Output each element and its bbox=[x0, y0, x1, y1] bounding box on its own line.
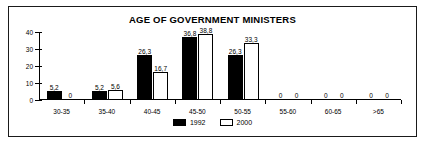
bar-2000-40-45[interactable]: 16,7 bbox=[153, 72, 168, 100]
x-axis-category-label: 30-35 bbox=[39, 108, 84, 115]
bar-value-label: 0 bbox=[340, 92, 344, 99]
bar-value-label: 5,2 bbox=[50, 84, 59, 91]
x-axis-tick bbox=[175, 100, 176, 104]
legend-swatch-1992 bbox=[173, 119, 186, 126]
x-axis-category-label: 55-60 bbox=[265, 108, 310, 115]
x-axis-tick bbox=[311, 100, 312, 104]
x-axis-category-label: 35-40 bbox=[84, 108, 129, 115]
x-axis-category-label: >65 bbox=[356, 108, 401, 115]
legend-label: 2000 bbox=[237, 119, 253, 126]
bar-2000-50-55[interactable]: 33,3 bbox=[244, 43, 259, 100]
x-axis-category-label: 40-45 bbox=[130, 108, 175, 115]
bar-group: 0060-65 bbox=[311, 32, 356, 100]
bar-value-label: 0 bbox=[369, 92, 373, 99]
bar-value-label: 5,2 bbox=[95, 84, 104, 91]
bar-value-label: 0 bbox=[279, 92, 283, 99]
bar-1992-50-55[interactable]: 26,3 bbox=[228, 55, 243, 100]
bar-value-label: 26,3 bbox=[229, 48, 242, 55]
bar-1992-35-40[interactable]: 5,2 bbox=[92, 91, 107, 100]
bar-value-label: 16,7 bbox=[154, 65, 167, 72]
x-axis-tick bbox=[356, 100, 357, 104]
chart-legend: 19922000 bbox=[9, 119, 416, 126]
y-axis-label: 40 bbox=[26, 29, 33, 36]
legend-label: 1992 bbox=[190, 119, 206, 126]
legend-item-1992[interactable]: 1992 bbox=[173, 119, 206, 126]
x-axis-tick bbox=[265, 100, 266, 104]
bar-1992-45-50[interactable]: 36,8 bbox=[182, 37, 197, 100]
bar-value-label: 0 bbox=[68, 92, 72, 99]
bar-value-label: 5,6 bbox=[111, 83, 120, 90]
bar-value-label: 33,3 bbox=[245, 36, 258, 43]
bar-value-label: 0 bbox=[295, 92, 299, 99]
bar-value-label: 36,8 bbox=[184, 30, 197, 37]
plot-area: 010203040 5,2030-355,25,635-4026,316,740… bbox=[39, 32, 401, 100]
bar-group: 26,316,740-45 bbox=[130, 32, 175, 100]
y-axis-label: 10 bbox=[26, 80, 33, 87]
bar-group: 0055-60 bbox=[265, 32, 310, 100]
bar-value-label: 26,3 bbox=[138, 48, 151, 55]
x-axis-tick bbox=[84, 100, 85, 104]
x-axis-category-label: 60-65 bbox=[311, 108, 356, 115]
bar-2000-45-50[interactable]: 38,8 bbox=[198, 34, 213, 100]
bar-value-label: 0 bbox=[324, 92, 328, 99]
legend-item-2000[interactable]: 2000 bbox=[220, 119, 253, 126]
x-axis-tick bbox=[130, 100, 131, 104]
x-axis-tick bbox=[401, 100, 402, 104]
bar-group: 5,25,635-40 bbox=[84, 32, 129, 100]
legend-swatch-2000 bbox=[220, 119, 233, 126]
bar-group: 00>65 bbox=[356, 32, 401, 100]
x-axis-category-label: 50-55 bbox=[220, 108, 265, 115]
bar-2000-35-40[interactable]: 5,6 bbox=[108, 90, 123, 100]
y-axis-tick-stub bbox=[39, 100, 42, 101]
bar-group: 26,333,350-55 bbox=[220, 32, 265, 100]
bar-value-label: 38,8 bbox=[200, 27, 213, 34]
chart-title: AGE OF GOVERNMENT MINISTERS bbox=[9, 14, 416, 25]
x-axis-tick bbox=[220, 100, 221, 104]
bar-1992-30-35[interactable]: 5,2 bbox=[47, 91, 62, 100]
x-axis-category-label: 45-50 bbox=[175, 108, 220, 115]
bar-1992-40-45[interactable]: 26,3 bbox=[137, 55, 152, 100]
bar-group: 36,838,845-50 bbox=[175, 32, 220, 100]
y-axis-label: 0 bbox=[29, 97, 33, 104]
y-axis-label: 30 bbox=[26, 46, 33, 53]
bar-value-label: 0 bbox=[385, 92, 389, 99]
bar-group: 5,2030-35 bbox=[39, 32, 84, 100]
chart-frame: AGE OF GOVERNMENT MINISTERS 010203040 5,… bbox=[8, 6, 417, 137]
y-axis-label: 20 bbox=[26, 63, 33, 70]
